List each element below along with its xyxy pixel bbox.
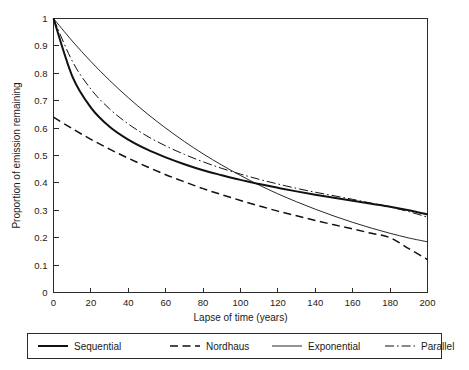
y-tick-label: 0.8 [34,68,47,79]
y-axis-tick-labels: 00.10.20.30.40.50.60.70.80.91 [34,13,47,298]
x-tick-label: 200 [420,297,436,308]
legend-label-parallel: Parallel [421,341,454,352]
y-tick-label: 0.2 [34,232,47,243]
y-tick-label: 0.7 [34,95,47,106]
plot-frame [54,19,428,293]
x-tick-label: 0 [51,297,56,308]
x-tick-label: 60 [160,297,171,308]
curve-parallel [54,19,428,218]
x-axis-ticks [54,288,428,293]
curve-sequential [54,19,428,215]
x-tick-label: 160 [345,297,361,308]
x-axis-title: Lapse of time (years) [194,312,288,323]
y-tick-label: 0.1 [34,260,47,271]
curve-nordhaus [54,117,428,259]
y-tick-label: 0.3 [34,205,47,216]
y-tick-label: 0.9 [34,40,47,51]
legend: SequentialNordhausExponentialParallel [28,334,455,359]
y-axis-title: Proportion of emission remaining [11,82,22,228]
curve-exponential [54,19,428,242]
x-tick-label: 120 [270,297,286,308]
y-tick-label: 0 [42,287,47,298]
legend-label-exponential: Exponential [308,341,360,352]
y-tick-label: 0.5 [34,150,47,161]
y-axis-ticks [54,19,59,293]
x-tick-label: 180 [382,297,398,308]
emission-decay-chart-figure: 020406080100120140160180200 00.10.20.30.… [0,0,469,370]
legend-label-nordhaus: Nordhaus [206,341,249,352]
y-tick-label: 0.6 [34,123,47,134]
data-curves [54,19,428,260]
x-tick-label: 40 [123,297,134,308]
x-tick-label: 80 [198,297,209,308]
y-tick-label: 1 [42,13,47,24]
legend-label-sequential: Sequential [74,341,121,352]
x-tick-label: 100 [233,297,249,308]
chart-svg: 020406080100120140160180200 00.10.20.30.… [0,0,469,370]
x-axis-tick-labels: 020406080100120140160180200 [51,297,436,308]
x-tick-label: 20 [86,297,97,308]
x-tick-label: 140 [307,297,323,308]
y-tick-label: 0.4 [34,177,47,188]
